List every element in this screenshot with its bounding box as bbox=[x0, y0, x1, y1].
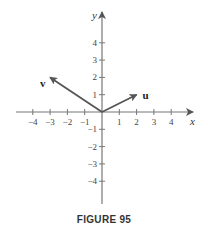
x-tick-label: 3 bbox=[152, 117, 157, 127]
y-tick-label: 3 bbox=[93, 55, 98, 65]
y-axis-label: y bbox=[91, 9, 97, 21]
coordinate-plane-figure: xy −4−3−2−11234−4−3−2−11234 uv bbox=[0, 0, 208, 238]
y-tick-label: 2 bbox=[93, 72, 98, 82]
y-tick-label: 4 bbox=[93, 38, 98, 48]
figure-caption: FIGURE 95 bbox=[0, 214, 208, 225]
y-tick-label: −1 bbox=[87, 124, 97, 134]
y-tick-label: −3 bbox=[87, 159, 97, 169]
y-tick-label: −4 bbox=[87, 176, 97, 186]
vector-u-label: u bbox=[143, 89, 149, 101]
y-tick-label: −2 bbox=[87, 142, 97, 152]
x-tick-label: 2 bbox=[134, 117, 139, 127]
y-tick-label: 1 bbox=[93, 90, 98, 100]
x-tick-label: 1 bbox=[117, 117, 122, 127]
x-axis-label: x bbox=[189, 115, 195, 127]
x-tick-label: 4 bbox=[169, 117, 174, 127]
axes: xy bbox=[16, 9, 195, 204]
vector-v-label: v bbox=[40, 77, 46, 89]
x-tick-label: −3 bbox=[45, 117, 55, 127]
x-tick-label: −2 bbox=[63, 117, 73, 127]
x-tick-label: −4 bbox=[28, 117, 38, 127]
